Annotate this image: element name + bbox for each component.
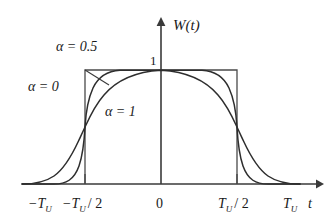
- y-axis-arrow-icon: [157, 17, 166, 26]
- svg-text:−TU: −TU: [28, 196, 52, 214]
- svg-text:−TU/ 2: −TU/ 2: [62, 196, 102, 214]
- raised-cosine-window-figure: W(t) 1 α = 0.5 α = 0 α = 1 −TU −TU/ 2: [0, 0, 327, 223]
- neg-tu-sub: U: [45, 204, 52, 214]
- x-axis-label: t: [308, 196, 313, 211]
- y-axis-label: W(t): [173, 17, 200, 34]
- pos-tu-half-suffix: / 2: [234, 196, 248, 211]
- neg-tu-half-suffix: / 2: [88, 196, 102, 211]
- pos-tu-half-sub: U: [226, 204, 233, 214]
- svg-text:TU: TU: [283, 196, 298, 214]
- svg-text:TU/ 2: TU/ 2: [218, 196, 249, 214]
- x-tick-label-neg-tu: −TU: [28, 196, 52, 214]
- leader-line-group: [85, 70, 109, 85]
- neg-tu-sign: −: [28, 196, 37, 211]
- x-tick-label-pos-tu-half: TU/ 2: [218, 196, 249, 214]
- x-tick-label-neg-tu-half: −TU/ 2: [62, 196, 102, 214]
- alpha-05-leader-line: [85, 70, 109, 85]
- y-value-label-one: 1: [150, 53, 157, 68]
- plot-svg: W(t) 1 α = 0.5 α = 0 α = 1 −TU −TU/ 2: [0, 0, 327, 223]
- neg-tu-half-sub: U: [79, 204, 86, 214]
- curve-label-alpha-05: α = 0.5: [56, 39, 97, 54]
- x-tick-label-pos-tu: TU: [283, 196, 298, 214]
- x-axis-arrow-icon: [316, 180, 324, 189]
- curve-label-alpha-0: α = 0: [28, 79, 59, 94]
- x-tick-label-zero: 0: [156, 196, 163, 211]
- neg-tu-half-sign: −: [62, 196, 71, 211]
- curve-label-alpha-1: α = 1: [105, 104, 136, 119]
- pos-tu-sub: U: [291, 204, 298, 214]
